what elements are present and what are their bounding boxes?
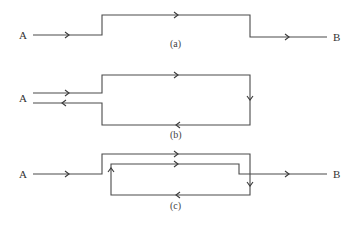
- path-c: [33, 154, 327, 195]
- caption-b: (b): [170, 129, 182, 141]
- caption-a: (a): [170, 38, 181, 50]
- caption-c: (c): [170, 200, 181, 212]
- label-c-start: A: [19, 168, 27, 180]
- panel-a: A B (a): [19, 12, 340, 50]
- label-b-start: A: [19, 92, 27, 104]
- diagram-canvas: A B (a) A (b) A B (c): [0, 0, 354, 227]
- label-a-end: B: [333, 31, 340, 43]
- panel-c: A B (c): [19, 151, 340, 212]
- panel-b: A (b): [19, 72, 253, 141]
- label-a-start: A: [19, 29, 27, 41]
- path-a: [33, 15, 327, 37]
- label-c-end: B: [333, 168, 340, 180]
